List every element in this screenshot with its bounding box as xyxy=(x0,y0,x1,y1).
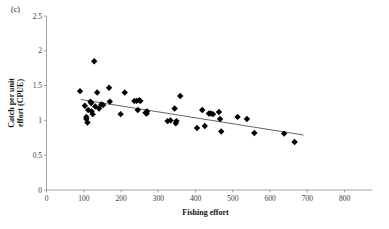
data-point xyxy=(94,89,100,95)
data-point xyxy=(216,109,222,115)
y-tick-label: 2 xyxy=(38,46,42,55)
x-tick-label: 600 xyxy=(264,194,276,203)
x-tick-label: 300 xyxy=(153,194,165,203)
data-point xyxy=(122,89,128,95)
y-tick-label: 1 xyxy=(38,116,42,125)
data-point xyxy=(199,107,205,113)
y-tick-label: 2.5 xyxy=(33,12,43,21)
scatter-chart: 00.511.522.5 0100200300400500600700800 F… xyxy=(0,0,389,229)
data-point xyxy=(194,125,200,131)
x-axis-tick-labels: 0100200300400500600700800 xyxy=(45,194,351,203)
x-axis-title: Fishing effort xyxy=(182,208,229,217)
x-tick-label: 100 xyxy=(78,194,90,203)
x-tick-label: 200 xyxy=(115,194,127,203)
data-point xyxy=(234,114,240,120)
data-point xyxy=(177,93,183,99)
data-point xyxy=(77,88,83,94)
data-point xyxy=(244,116,250,122)
data-point xyxy=(117,111,123,117)
y-tick-label: 1.5 xyxy=(33,81,43,90)
trend-line xyxy=(81,100,304,135)
y-axis-title-line1: Catch per unit xyxy=(7,78,16,128)
figure-panel-c: (c) 00.511.522.5 01002003004005006007008… xyxy=(0,0,389,229)
x-tick-label: 700 xyxy=(302,194,314,203)
data-point xyxy=(251,130,257,136)
y-tick-label: 0.5 xyxy=(33,151,43,160)
x-tick-label: 500 xyxy=(227,194,239,203)
y-axis-title-line2: effort (CPUE) xyxy=(16,79,25,128)
data-point xyxy=(202,123,208,129)
data-point xyxy=(91,58,97,64)
x-tick-label: 800 xyxy=(339,194,351,203)
data-point xyxy=(171,105,177,111)
x-tick-label: 400 xyxy=(190,194,202,203)
data-point xyxy=(135,107,141,113)
data-point xyxy=(218,128,224,134)
data-point xyxy=(291,139,297,145)
x-tick-label: 0 xyxy=(45,194,49,203)
y-axis-tick-labels: 00.511.522.5 xyxy=(33,12,43,195)
y-tick-label: 0 xyxy=(38,186,42,195)
data-point xyxy=(106,84,112,90)
data-points xyxy=(77,58,298,145)
